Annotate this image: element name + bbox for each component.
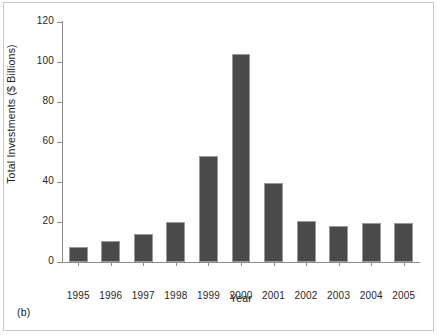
y-axis-tick (57, 222, 62, 223)
panel-caption: (b) (17, 306, 30, 318)
x-axis-tick (208, 262, 209, 266)
y-axis-tick (57, 22, 62, 23)
x-axis-tick (143, 262, 144, 266)
y-axis-tick-label: 40 (16, 175, 54, 186)
y-axis-title: Total Investments ($ Billions) (5, 0, 17, 239)
y-axis-tick (57, 62, 62, 63)
x-axis-tick (78, 262, 79, 266)
plot-area: 0204060801001201995199619971998199920002… (62, 22, 420, 262)
y-axis-tick-label: 120 (16, 15, 54, 26)
y-axis-tick-label: 20 (16, 215, 54, 226)
bar-1995 (69, 247, 88, 262)
x-axis-tick (176, 262, 177, 266)
bar-2004 (362, 223, 381, 262)
figure-root: 0204060801001201995199619971998199920002… (0, 0, 437, 335)
bar-2002 (297, 221, 316, 262)
x-axis-tick (241, 262, 242, 266)
bar-1999 (199, 156, 218, 262)
bar-2005 (394, 223, 413, 262)
x-axis-tick (274, 262, 275, 266)
y-axis-tick-label: 0 (16, 255, 54, 266)
bar-2003 (329, 226, 348, 262)
y-axis-tick (57, 142, 62, 143)
x-axis-title: Year (62, 292, 420, 304)
x-axis-tick (111, 262, 112, 266)
bar-1996 (101, 241, 120, 262)
x-axis-tick (404, 262, 405, 266)
bar-1998 (166, 222, 185, 262)
bar-2000 (232, 54, 251, 262)
bar-1997 (134, 234, 153, 262)
x-axis-tick (306, 262, 307, 266)
y-axis-tick-label: 100 (16, 55, 54, 66)
y-axis-tick (57, 262, 62, 263)
x-axis-tick (371, 262, 372, 266)
y-axis-tick (57, 102, 62, 103)
y-axis-tick (57, 182, 62, 183)
bar-2001 (264, 183, 283, 262)
y-axis-tick-label: 80 (16, 95, 54, 106)
y-axis-tick-label: 60 (16, 135, 54, 146)
x-axis-tick (339, 262, 340, 266)
